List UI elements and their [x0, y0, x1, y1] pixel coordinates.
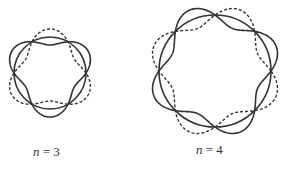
base-orbit-circle — [14, 37, 86, 109]
wave-figure-n3 — [10, 29, 91, 117]
label-value: = 3 — [40, 144, 60, 159]
dashed-wave — [153, 9, 278, 134]
standing-wave-diagram: n = 3 n = 4 — [0, 0, 290, 170]
label-n4: n = 4 — [196, 142, 223, 158]
solid-wave — [153, 9, 278, 134]
label-n3: n = 3 — [33, 144, 60, 160]
solid-wave — [10, 42, 91, 117]
dashed-wave — [10, 29, 91, 104]
wave-figure-n4 — [153, 9, 278, 134]
label-value: = 4 — [203, 142, 223, 157]
